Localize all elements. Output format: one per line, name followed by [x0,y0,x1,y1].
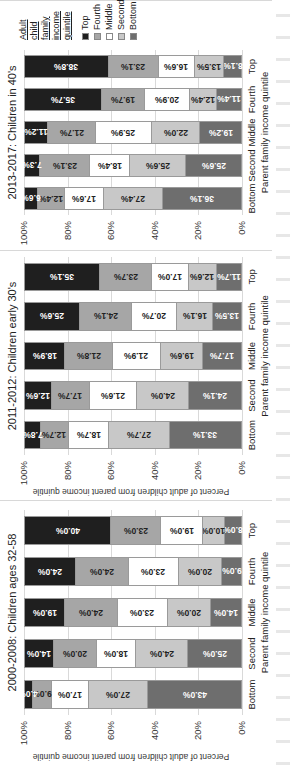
chart-panel: 2013-2017: Children in 40'sBottomSecondM… [0,0,272,250]
segment-value-label: 19.7% [111,95,135,105]
bar-segment-fourth: 19.7% [102,88,145,112]
bar-segment-bottom: 11.7% [217,263,242,292]
legend-title-line: income [51,0,62,40]
legend-item-label: Middle [103,3,115,30]
legend-item-label: Fourth [91,4,103,30]
y-tick-label: 80% [62,221,73,251]
bar-segment-second: 25.6% [130,154,186,178]
segment-value-label: 18.9% [33,351,57,361]
legend-item-label: Bottom [127,1,139,30]
stacked-bar: 13.5%16.1%20.7%24.1%25.6% [24,302,242,331]
bar-segment-second: 10.0% [203,516,225,546]
y-tick-label: 40% [149,721,160,751]
bar-segment-second: 24.0% [136,639,188,669]
legend-swatch [82,33,89,40]
segment-value-label: 13.5% [197,62,221,72]
y-tick-label: 0% [236,461,247,491]
segment-value-label: 21.6% [101,391,125,401]
segment-value-label: 20.0% [188,567,212,577]
legend-item-label: Second [115,0,127,30]
x-category-label: Top [246,511,257,551]
y-tick-label: 0% [236,721,247,751]
segment-value-label: 24.0% [38,567,62,577]
segment-value-label: 21.7% [60,128,84,138]
bar-segment-top: 18.9% [24,342,65,371]
gridline [242,510,243,715]
segment-value-label: 4.0% [19,690,38,700]
bar-segment-second: 27.7% [109,421,169,450]
bar-segment-fourth: 23.7% [100,263,152,292]
y-tick-label: 100% [18,461,29,491]
x-category-label: Bottom [246,415,257,455]
legend-item-second: Second [115,0,127,40]
segment-value-label: 23.1% [121,62,145,72]
x-axis-label: Parent family income quintile [259,510,270,715]
segment-value-label: 24.0% [90,567,114,577]
gridline [242,50,243,215]
bar-segment-fourth: 24.0% [76,557,128,587]
x-category-label: Fourth [246,296,257,336]
segment-value-label: 25.0% [202,649,226,659]
bar-segment-middle: 18.0% [97,639,136,669]
bar-segment-fourth: 20.0% [54,639,97,669]
x-category-label: Middle [246,593,257,633]
bar-segment-fourth: 23.1% [109,55,159,79]
segment-value-label: 9.0% [222,567,241,577]
plot-area: 100%80%60%40%20%0%36.1%27.4%17.6%12.4%6.… [24,50,242,215]
bar-segment-top: 7.8% [24,421,41,450]
bar-segment-bottom: 14.0% [211,598,242,628]
bar-segment-top: 19.0% [24,598,65,628]
legend-title-line: quintile [62,0,73,40]
bar-segment-top: 7.3% [24,154,40,178]
x-category-label: Second [246,634,257,674]
segment-value-label: 40.0% [56,526,80,536]
rotated-figure-page: 2000-2008: Children ages 32-58Percent of… [0,0,290,765]
legend-swatch [130,33,137,40]
bar-segment-middle: 17.0% [152,263,189,292]
y-tick-label: 60% [105,221,116,251]
cut-off-caption-text [276,0,290,765]
bar-segment-top: 35.1% [24,263,100,292]
bar-segment-middle: 17.6% [65,187,103,211]
segment-value-label: 43.0% [183,690,207,700]
legend-item-label: Top [79,15,91,30]
segment-value-label: 18.0% [104,649,128,659]
segment-value-label: 12.7% [42,430,66,440]
legend-item-bottom: Bottom [127,0,139,40]
segment-value-label: 18.4% [98,161,122,171]
segment-value-label: 25.9% [111,128,135,138]
x-axis-label: Parent family income quintile [259,257,270,455]
y-tick-label: 100% [18,221,29,251]
bar-segment-fourth: 23.0% [111,516,161,546]
segment-value-label: 27.0% [106,690,130,700]
legend-item-middle: Middle [103,0,115,40]
segment-value-label: 21.9% [124,351,148,361]
segment-value-label: 8.1% [223,62,242,72]
segment-value-label: 19.0% [33,608,57,618]
segment-value-label: 33.1% [193,430,217,440]
bar-segment-second: 19.6% [161,342,204,371]
segment-value-label: 16.6% [164,62,188,72]
bar-segment-bottom: 19.2% [200,121,242,145]
x-category-label: Top [246,257,257,297]
legend-title-line: child [29,0,40,40]
bar-segment-top: 24.0% [24,557,76,587]
y-tick-label: 60% [105,721,116,751]
segment-value-label: 14.0% [214,608,238,618]
segment-value-label: 23.1% [53,161,77,171]
legend-item-fourth: Fourth [91,0,103,40]
segment-value-label: 11.2% [24,128,48,138]
bar-segment-top: 35.7% [24,88,102,112]
segment-value-label: 20.9% [155,95,179,105]
plot-area: 100%80%60%40%20%0%43.0%27.0%17.0%9.0%4.0… [24,510,242,715]
segment-value-label: 19.0% [170,526,194,536]
segment-value-label: 35.1% [50,272,74,282]
segment-value-label: 12.6% [26,391,50,401]
bar-segment-bottom: 43.0% [148,680,242,710]
segment-value-label: 22.0% [164,128,188,138]
stacked-bar: 43.0%27.0%17.0%9.0%4.0% [24,680,242,710]
bar-segment-top: 40.0% [24,516,111,546]
segment-value-label: 24.0% [150,649,174,659]
y-axis-label: Percent of adult children from parent in… [31,752,231,762]
bar-segment-top: 14.0% [24,639,54,669]
